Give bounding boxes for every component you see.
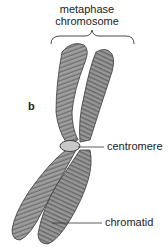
chromatid-label: chromatid [105, 216, 153, 229]
panel-label: b [28, 100, 35, 113]
centromere-label: centromere [107, 140, 163, 153]
brace [51, 30, 134, 44]
chromosome-diagram [0, 0, 168, 251]
centromere [60, 141, 80, 152]
